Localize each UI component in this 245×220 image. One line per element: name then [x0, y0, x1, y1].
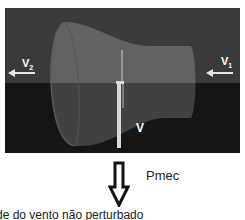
stream-tube-image: V1 V2 V: [5, 8, 240, 153]
caption-text: de do vento não perturbado: [0, 208, 143, 220]
label-v-rotor: V: [136, 121, 144, 135]
power-arrow-icon: [108, 161, 130, 207]
turbine-tower-icon: [117, 83, 121, 148]
turbine-nacelle-icon: [116, 81, 124, 84]
label-pmec: Pmec: [146, 168, 179, 183]
label-v1: V1: [221, 55, 232, 69]
stream-tube-illustration: [5, 8, 240, 153]
label-v2: V2: [22, 57, 33, 71]
